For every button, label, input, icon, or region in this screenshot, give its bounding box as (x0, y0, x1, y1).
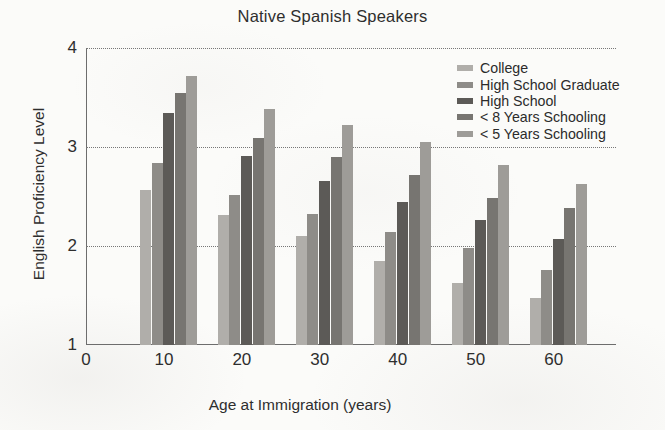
bar (576, 184, 587, 345)
bar (475, 220, 486, 345)
bar (229, 195, 240, 345)
x-tick-label-20: 20 (232, 350, 251, 370)
legend-item: High School (457, 93, 657, 109)
bar (342, 125, 353, 345)
bar (163, 113, 174, 345)
bar (385, 232, 396, 345)
bar (307, 214, 318, 345)
legend-item-label: High School Graduate (480, 77, 620, 93)
bar-group-40 (374, 48, 432, 345)
bar (140, 190, 151, 345)
chart-figure: Native Spanish Speakers English Proficie… (0, 0, 665, 430)
legend-swatch-icon (457, 131, 473, 137)
bar (452, 283, 463, 345)
bar (463, 248, 474, 345)
x-tick-label-0: 0 (81, 350, 90, 370)
bar (218, 215, 229, 345)
bar (541, 270, 552, 345)
bar (241, 156, 252, 345)
y-axis-line (86, 48, 87, 345)
legend: CollegeHigh School GraduateHigh School< … (457, 60, 657, 142)
legend-swatch-icon (457, 82, 473, 88)
x-tick-label-60: 60 (544, 350, 563, 370)
legend-item-label: College (480, 60, 528, 76)
bar (553, 239, 564, 345)
bar (397, 202, 408, 345)
legend-item: College (457, 60, 657, 76)
legend-item: < 5 Years Schooling (457, 126, 657, 142)
bar (253, 138, 264, 345)
x-tick-label-10: 10 (154, 350, 173, 370)
legend-item: < 8 Years Schooling (457, 109, 657, 125)
y-tick-label-1: 1 (68, 335, 77, 355)
y-tick-label-2: 2 (68, 236, 77, 256)
bar (296, 236, 307, 345)
legend-item-label: < 5 Years Schooling (480, 126, 606, 142)
legend-item: High School Graduate (457, 76, 657, 92)
page-title: Native Spanish Speakers (0, 7, 665, 26)
legend-item-label: High School (480, 93, 557, 109)
bar (420, 142, 431, 345)
bar (498, 165, 509, 345)
bar (374, 261, 385, 345)
bar-group-30 (296, 48, 354, 345)
bar (152, 163, 163, 345)
legend-swatch-icon (457, 98, 473, 104)
y-tick-label-4: 4 (68, 38, 77, 58)
bar (564, 208, 575, 345)
legend-item-label: < 8 Years Schooling (480, 109, 606, 125)
y-tick-label-3: 3 (68, 137, 77, 157)
x-axis-label: Age at Immigration (years) (90, 396, 510, 414)
x-tick-label-40: 40 (388, 350, 407, 370)
y-axis-label: English Proficiency Level (30, 79, 48, 309)
bar (186, 76, 197, 345)
bar (319, 181, 330, 345)
bar (175, 93, 186, 345)
legend-swatch-icon (457, 114, 473, 120)
x-tick-label-50: 50 (466, 350, 485, 370)
bar (409, 175, 420, 345)
bar (487, 198, 498, 345)
bar (530, 298, 541, 345)
bar (264, 109, 275, 345)
bar (331, 157, 342, 345)
bar-group-10 (140, 48, 198, 345)
x-tick-label-30: 30 (310, 350, 329, 370)
legend-swatch-icon (457, 65, 473, 71)
bar-group-20 (218, 48, 276, 345)
